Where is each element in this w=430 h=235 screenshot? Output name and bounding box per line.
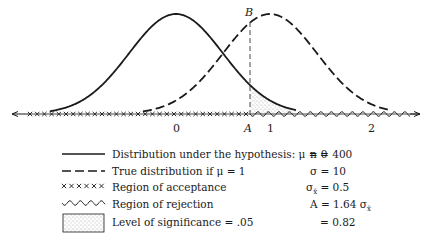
legend-label-acceptance: Region of acceptance (112, 181, 226, 193)
param-sigma-xbar: σx̄ = 0.5 (306, 181, 349, 198)
legend-label-significance: Level of significance = .05 (112, 216, 253, 228)
sigma-xbar-value: = 0.5 (317, 181, 349, 193)
param-n: n = 400 (310, 148, 352, 160)
legend-label-true: True distribution if μ = 1 (112, 165, 245, 177)
param-A-value: = 0.82 (320, 216, 356, 228)
A-definition: A = 1.64 σ (310, 198, 367, 210)
legend-label-hypothesis: Distribution under the hypothesis: μ = 0 (112, 148, 328, 160)
param-sigma: σ = 10 (310, 165, 346, 177)
A-xbar-subscript: x̄ (367, 205, 371, 213)
legend-label-rejection: Region of rejection (112, 198, 213, 210)
param-A: A = 1.64 σx̄ (310, 198, 371, 215)
